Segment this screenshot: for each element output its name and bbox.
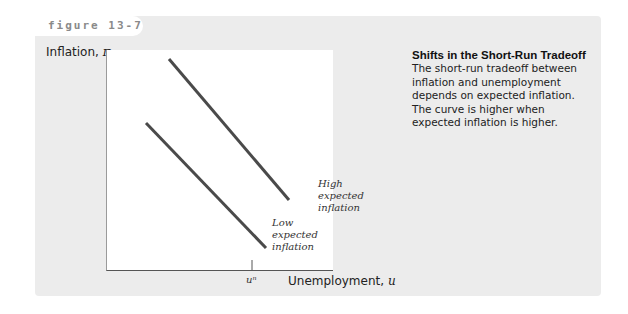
x-axis-label: Unemployment, u	[288, 274, 396, 288]
caption-body: The short-run tradeoff between inflation…	[412, 62, 582, 130]
natural-rate-label: uⁿ	[246, 274, 257, 285]
high-expected-curve	[169, 59, 289, 200]
low-expected-label: Lowexpectedinflation	[272, 217, 318, 253]
caption-title: Shifts in the Short-Run Tradeoff	[412, 49, 586, 61]
low-expected-curve	[146, 123, 266, 248]
chart-lines	[0, 0, 628, 314]
high-expected-label: Highexpectedinflation	[318, 178, 364, 214]
